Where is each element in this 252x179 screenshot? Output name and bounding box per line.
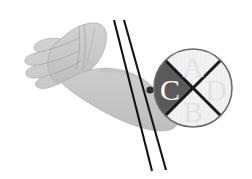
- figure-root: A D B C: [0, 0, 252, 179]
- figure-illustration: A D B C: [0, 0, 252, 179]
- quadrant-label-d: D: [205, 73, 227, 106]
- entry-point-dot: [146, 86, 153, 93]
- quadrant-label-a: A: [182, 50, 204, 83]
- quadrant-label-b: B: [183, 95, 203, 128]
- quadrant-label-c: C: [160, 73, 180, 106]
